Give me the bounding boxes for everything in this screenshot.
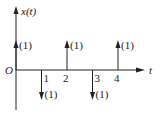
impulse-plot: x(t) t O 1234 (1)(1)(1)(1)(1) <box>0 0 161 127</box>
tick-label-1: 1 <box>44 72 50 84</box>
arrow-up-icon <box>14 40 19 48</box>
arrow-down-icon <box>90 92 95 100</box>
tick-label-4: 4 <box>114 72 120 84</box>
origin-label: O <box>5 64 13 76</box>
impulse-diagram: x(t) t O 1234 (1)(1)(1)(1)(1) <box>0 0 161 127</box>
impulse-weight-label: (1) <box>19 39 32 52</box>
impulse-weight-label: (1) <box>70 39 83 52</box>
impulse-t4: (1) <box>116 39 135 70</box>
y-axis-arrowhead-icon <box>14 6 19 14</box>
arrow-up-icon <box>116 40 121 48</box>
y-axis-label: x(t) <box>20 5 37 18</box>
impulse-weight-label: (1) <box>121 39 134 52</box>
impulse-t0: (1) <box>14 39 33 70</box>
tick-label-2: 2 <box>63 72 69 84</box>
impulse-weight-label: (1) <box>45 88 58 101</box>
x-axis-label: t <box>149 64 153 76</box>
x-axis-arrowhead-icon <box>136 68 145 73</box>
arrow-up-icon <box>65 40 70 48</box>
impulse-t2: (1) <box>65 39 84 70</box>
impulse-weight-label: (1) <box>96 88 109 101</box>
arrow-down-icon <box>39 92 44 100</box>
tick-label-3: 3 <box>95 72 101 84</box>
